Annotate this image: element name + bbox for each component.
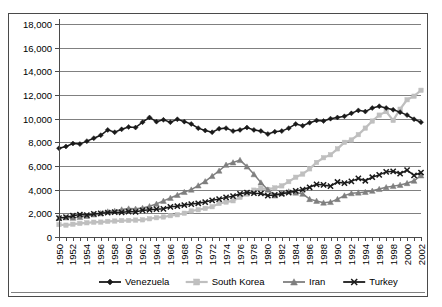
data-point-marker xyxy=(370,106,375,111)
series-line xyxy=(59,160,421,218)
data-point-marker xyxy=(161,117,166,122)
data-point-marker xyxy=(126,124,131,129)
data-point-marker xyxy=(419,88,423,92)
data-point-marker xyxy=(168,120,173,125)
x-axis-tick-label: 1968 xyxy=(179,244,190,265)
data-series-group xyxy=(56,88,424,227)
data-point-marker xyxy=(203,206,207,210)
data-point-marker xyxy=(244,125,249,130)
data-point-marker xyxy=(377,113,381,117)
data-point-marker xyxy=(224,126,229,131)
data-point-marker xyxy=(119,218,123,222)
data-point-marker xyxy=(251,127,256,132)
data-point-marker xyxy=(161,215,165,219)
data-point-marker xyxy=(272,129,277,134)
chart-frame: 02,0004,0006,0008,00010,00012,00014,0001… xyxy=(8,13,428,297)
legend-label: Iran xyxy=(309,276,325,287)
y-axis-tick-label: 2,000 xyxy=(28,208,52,219)
data-point-marker xyxy=(99,220,103,224)
data-point-marker xyxy=(391,118,395,122)
x-axis-tick-label: 1972 xyxy=(207,244,218,265)
data-point-marker xyxy=(112,219,116,223)
y-axis-tick-label: 14,000 xyxy=(23,66,52,77)
data-point-marker xyxy=(419,120,424,125)
data-point-marker xyxy=(307,167,311,171)
data-point-marker xyxy=(300,172,304,176)
data-point-marker xyxy=(147,217,151,221)
data-point-marker xyxy=(182,211,186,215)
y-axis-tick-label: 0 xyxy=(47,232,52,243)
data-point-marker xyxy=(342,114,347,119)
data-point-marker xyxy=(273,186,277,190)
data-point-marker xyxy=(280,184,284,188)
x-axis-tick-label: 1994 xyxy=(360,244,371,265)
line-chart: 02,0004,0006,0008,00010,00012,00014,0001… xyxy=(9,14,427,296)
data-point-marker xyxy=(203,128,208,133)
data-point-marker xyxy=(71,222,75,226)
x-axis-tick-label: 1958 xyxy=(109,244,120,265)
x-axis-tick-label: 1966 xyxy=(165,244,176,265)
data-point-marker xyxy=(210,130,215,135)
data-point-marker xyxy=(194,279,200,285)
data-point-marker xyxy=(287,179,291,183)
x-axis-tick-label: 2002 xyxy=(416,244,427,265)
data-point-marker xyxy=(126,218,130,222)
x-axis-tick-label: 1950 xyxy=(54,244,65,265)
x-axis-tick-label: 1974 xyxy=(221,244,232,265)
data-point-marker xyxy=(265,132,270,137)
data-point-marker xyxy=(189,209,193,213)
x-axis-tick-label: 1954 xyxy=(81,244,92,265)
legend-item-venezuela[interactable]: Venezuela xyxy=(99,276,170,287)
data-point-marker xyxy=(356,132,360,136)
x-axis-tick-label: 1988 xyxy=(318,244,329,265)
data-point-marker xyxy=(307,120,312,125)
data-point-marker xyxy=(231,129,236,134)
legend-label: Venezuela xyxy=(125,276,170,287)
y-axis-tick-label: 8,000 xyxy=(28,137,52,148)
data-point-marker xyxy=(259,186,263,190)
data-point-marker xyxy=(404,168,409,173)
x-axis-tick-label: 1978 xyxy=(248,244,259,265)
y-axis-tick-label: 12,000 xyxy=(23,90,52,101)
data-point-marker xyxy=(314,160,318,164)
data-point-marker xyxy=(342,140,346,144)
data-point-marker xyxy=(70,141,75,146)
data-point-marker xyxy=(175,117,180,122)
x-axis-tick-label: 1992 xyxy=(346,244,357,265)
data-point-marker xyxy=(92,220,96,224)
x-axis-tick-label: 1970 xyxy=(193,244,204,265)
data-point-marker xyxy=(412,94,416,98)
x-axis-tick-label: 1956 xyxy=(95,244,106,265)
x-axis-tick-label: 2000 xyxy=(402,244,413,265)
series-venezuela xyxy=(57,104,424,151)
data-point-marker xyxy=(356,108,361,113)
x-axis-tick-label: 1980 xyxy=(262,244,273,265)
data-point-marker xyxy=(328,153,332,157)
data-point-marker xyxy=(85,221,89,225)
y-axis-tick-label: 10,000 xyxy=(23,114,52,125)
x-axis-tick-label: 1982 xyxy=(276,244,287,265)
legend-item-turkey[interactable]: Turkey xyxy=(343,276,398,287)
data-point-marker xyxy=(168,214,172,218)
data-point-marker xyxy=(258,129,263,134)
data-point-marker xyxy=(107,279,113,285)
data-point-marker xyxy=(217,126,222,131)
data-point-marker xyxy=(377,104,382,109)
data-point-marker xyxy=(238,127,243,132)
data-point-marker xyxy=(106,219,110,223)
legend-item-iran[interactable]: Iran xyxy=(283,276,325,287)
data-point-marker xyxy=(349,111,354,116)
x-axis-tick-label: 1990 xyxy=(332,244,343,265)
y-axis-tick-label: 18,000 xyxy=(23,19,52,30)
legend-item-south-korea[interactable]: South Korea xyxy=(186,276,266,287)
data-point-marker xyxy=(133,218,137,222)
data-point-marker xyxy=(349,138,353,142)
legend-label: Turkey xyxy=(369,276,398,287)
x-axis-labels-group: 1950195219541956195819601962196419661968… xyxy=(54,244,427,265)
data-point-marker xyxy=(175,213,179,217)
data-point-marker xyxy=(91,136,96,141)
data-point-marker xyxy=(154,216,158,220)
y-axis-tick-label: 16,000 xyxy=(23,43,52,54)
legend-label: South Korea xyxy=(212,276,266,287)
x-axis-tick-label: 1986 xyxy=(304,244,315,265)
